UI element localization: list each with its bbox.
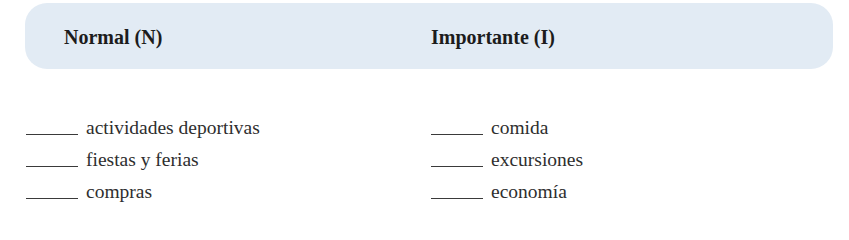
list-item: economía [431, 172, 583, 204]
list-item: actividades deportivas [26, 108, 260, 140]
list-item: fiestas y ferias [26, 140, 260, 172]
list-item: compras [26, 172, 260, 204]
item-label: comida [491, 117, 548, 140]
normal-list: actividades deportivas fiestas y ferias … [26, 108, 260, 204]
item-label: actividades deportivas [86, 117, 260, 140]
answer-blank[interactable] [26, 165, 78, 167]
column-heading-normal: Normal (N) [64, 26, 162, 48]
item-label: excursiones [491, 149, 583, 172]
answer-blank[interactable] [431, 133, 483, 135]
item-label: economía [491, 181, 567, 204]
list-item: excursiones [431, 140, 583, 172]
answer-blank[interactable] [431, 197, 483, 199]
item-label: compras [86, 181, 152, 204]
importante-list: comida excursiones economía [431, 108, 583, 204]
item-label: fiestas y ferias [86, 149, 199, 172]
column-heading-importante: Importante (I) [431, 26, 555, 48]
list-item: comida [431, 108, 583, 140]
answer-blank[interactable] [26, 133, 78, 135]
answer-blank[interactable] [26, 197, 78, 199]
answer-blank[interactable] [431, 165, 483, 167]
